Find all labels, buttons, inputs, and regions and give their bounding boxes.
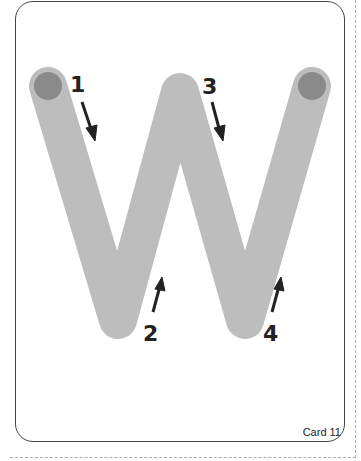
arrow-up-2-icon xyxy=(153,277,165,312)
start-dot-right-icon xyxy=(298,72,326,100)
stroke-number-1: 1 xyxy=(70,74,85,96)
start-dot-left-icon xyxy=(34,72,62,100)
arrow-down-3-icon xyxy=(212,102,225,141)
stroke-number-4: 4 xyxy=(263,323,278,345)
arrow-down-1-icon xyxy=(82,102,97,141)
stroke-number-3: 3 xyxy=(202,76,217,98)
stroke-number-2: 2 xyxy=(143,323,158,345)
card-label: Card 11 xyxy=(303,426,341,438)
letter-w-tracing xyxy=(0,0,361,461)
